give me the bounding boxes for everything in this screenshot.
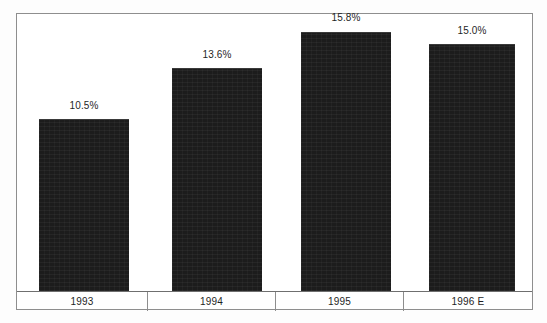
category-label-1996e: 1996 E <box>404 292 532 311</box>
bar-group-1995: 15.8% <box>301 14 391 291</box>
plot-area: 10.5% 13.6% 15.8% 15.0% <box>17 14 532 291</box>
bar-rect <box>39 119 129 291</box>
category-label-1994: 1994 <box>148 292 276 311</box>
bar-group-1993: 10.5% <box>39 14 129 291</box>
category-label-text: 1996 E <box>452 297 485 307</box>
category-label-text: 1995 <box>328 297 351 307</box>
category-axis: 1993 1994 1995 1996 E <box>17 292 532 311</box>
category-label-text: 1994 <box>200 297 223 307</box>
bar-value-label: 15.8% <box>332 13 361 23</box>
bar-rect <box>301 32 391 291</box>
bar-rect <box>429 44 515 291</box>
bar-value-label: 15.0% <box>458 26 487 36</box>
chart-frame: 10.5% 13.6% 15.8% 15.0% 1993 1994 <box>16 13 533 310</box>
bar-group-1996e: 15.0% <box>429 14 515 291</box>
bar-value-label: 10.5% <box>70 101 99 111</box>
bar-value-label: 13.6% <box>203 50 232 60</box>
category-label-1993: 1993 <box>17 292 148 311</box>
bar-rect <box>172 68 262 291</box>
category-label-text: 1993 <box>70 297 93 307</box>
category-label-1995: 1995 <box>276 292 404 311</box>
bar-group-1994: 13.6% <box>172 14 262 291</box>
chart-figure: 10.5% 13.6% 15.8% 15.0% 1993 1994 <box>0 0 547 323</box>
